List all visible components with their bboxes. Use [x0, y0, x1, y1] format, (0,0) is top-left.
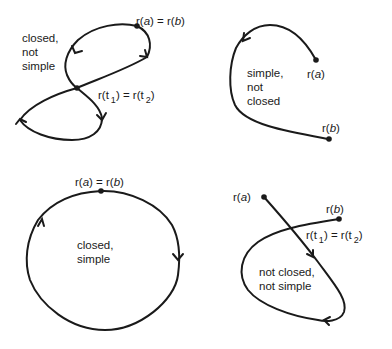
top-left-crossing-label: r(t1) = r(t2) [98, 88, 155, 107]
bottom-right-end-label: r(b) [326, 202, 344, 216]
dot-icon [336, 216, 342, 222]
bottom-left-endpoint-label: r(a) = r(b) [75, 175, 124, 189]
description-line: simple [77, 252, 113, 266]
top-left-endpoint-label: r(a) = r(b) [136, 14, 185, 28]
curves-canvas [0, 0, 392, 349]
description-line: not simple [259, 279, 315, 293]
dot-icon [98, 188, 104, 194]
dot-icon [313, 57, 319, 63]
top-left-description: closed, not simple [22, 31, 58, 73]
bottom-right-crossing-label: r(t1) = r(t2) [306, 228, 363, 247]
top-right-description: simple, not closed [247, 66, 283, 108]
arrow-icon [173, 254, 183, 260]
dot-icon [326, 136, 332, 142]
description-line: simple [22, 59, 58, 73]
dot-icon [261, 194, 267, 200]
description-line: closed [247, 94, 283, 108]
arrow-icon [72, 46, 82, 53]
bottom-right-description: not closed, not simple [259, 265, 315, 293]
description-line: not closed, [259, 265, 315, 279]
figure-eight-upper-loop [65, 24, 150, 88]
description-line: not [22, 45, 58, 59]
figure-eight-lower-loop [20, 88, 102, 140]
description-line: simple, [247, 66, 283, 80]
top-right-start-label: r(a) [307, 67, 325, 81]
top-right-end-label: r(b) [322, 121, 340, 135]
bottom-right-start-label: r(a) [233, 190, 251, 204]
description-line: closed, [22, 31, 58, 45]
arrow-icon [140, 50, 147, 57]
description-line: not [247, 80, 283, 94]
bottom-left-description: closed, simple [77, 238, 113, 266]
description-line: closed, [77, 238, 113, 252]
dot-icon [74, 85, 80, 91]
